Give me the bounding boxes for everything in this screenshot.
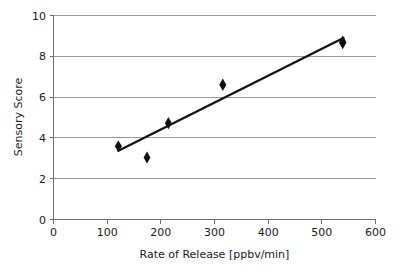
data-point-marker xyxy=(219,78,226,91)
x-tick-label-500: 500 xyxy=(311,226,332,239)
x-axis-title: Rate of Release [ppbv/min] xyxy=(140,248,290,261)
y-tick-label-8: 8 xyxy=(39,50,46,63)
y-tick-label-2: 2 xyxy=(39,173,46,186)
chart-canvas: 10 8 6 4 2 0 0 100 200 300 400 500 600 xyxy=(0,0,403,276)
y-tick-label-6: 6 xyxy=(39,91,46,104)
y-tick-label-0: 0 xyxy=(39,214,46,227)
data-point-marker xyxy=(339,36,347,50)
scatter-chart: 10 8 6 4 2 0 0 100 200 300 400 500 600 xyxy=(0,0,403,276)
x-axis-tick-labels: 0 100 200 300 400 500 600 xyxy=(50,226,386,239)
y-axis-tick-labels: 10 8 6 4 2 0 xyxy=(32,10,46,227)
y-axis-title: Sensory Score xyxy=(12,78,25,157)
x-tick-label-200: 200 xyxy=(150,226,171,239)
y-tick-label-10: 10 xyxy=(32,10,46,23)
x-tick-label-100: 100 xyxy=(97,226,118,239)
y-axis-ticks xyxy=(50,16,54,220)
x-tick-label-600: 600 xyxy=(365,226,386,239)
data-point-marker xyxy=(144,151,151,163)
x-tick-label-400: 400 xyxy=(258,226,279,239)
y-tick-label-4: 4 xyxy=(39,132,46,145)
x-tick-label-0: 0 xyxy=(50,226,57,239)
x-tick-label-300: 300 xyxy=(204,226,225,239)
gridlines xyxy=(54,16,376,179)
trendline xyxy=(117,38,344,152)
x-axis-ticks xyxy=(54,220,376,224)
